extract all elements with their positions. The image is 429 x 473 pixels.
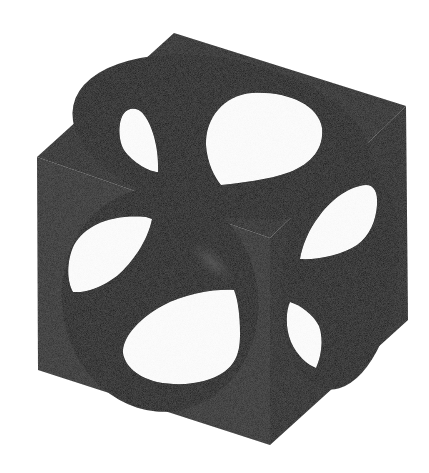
- cube-figure: [0, 0, 429, 473]
- cube: [37, 29, 410, 445]
